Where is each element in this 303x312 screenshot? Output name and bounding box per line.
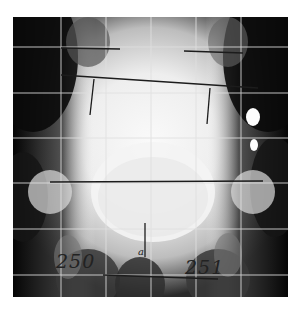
xray-drawing <box>13 17 288 297</box>
annotation-center-mark: a <box>138 246 145 257</box>
annotation-left-number: 250 <box>56 250 95 272</box>
xray-image: 250 251 a <box>13 17 288 297</box>
annotation-right-number: 251 <box>185 256 224 278</box>
contrast-blob <box>246 108 260 126</box>
